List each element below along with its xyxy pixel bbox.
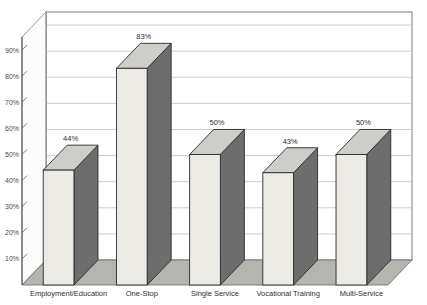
chart-canvas: 10%20%30%40%50%60%70%80%90% 44%83%50%43%… — [0, 0, 427, 305]
y-axis-tick-labels: 10%20%30%40%50%60%70%80%90% — [5, 47, 19, 263]
y-axis-tick-label: 70% — [5, 99, 19, 106]
y-axis-tick-label: 80% — [5, 73, 19, 80]
bar-value-label: 83% — [136, 32, 151, 41]
y-axis-tick-label: 10% — [5, 255, 19, 262]
bar-chart: 10%20%30%40%50%60%70%80%90% 44%83%50%43%… — [0, 0, 427, 305]
category-label: Multi-Service — [340, 289, 383, 298]
bar-side-face — [220, 129, 244, 285]
y-axis-tick-label: 90% — [5, 47, 19, 54]
y-axis-tick-label: 20% — [5, 229, 19, 236]
plot-left-wall — [22, 12, 46, 285]
category-label: Single Service — [191, 289, 239, 298]
y-axis-tick-label: 50% — [5, 151, 19, 158]
category-label: Vocational Training — [257, 289, 320, 298]
bar-front-face — [43, 170, 74, 285]
bar-3d — [336, 129, 391, 285]
category-label: Employment/Education — [30, 289, 107, 298]
bar-front-face — [263, 173, 294, 285]
bar-3d — [116, 43, 171, 285]
y-axis-tick-label: 40% — [5, 177, 19, 184]
bar-3d — [263, 148, 318, 285]
bar-side-face — [367, 129, 391, 285]
bar-front-face — [336, 154, 367, 285]
bar-front-face — [116, 68, 147, 285]
bar-3d — [190, 129, 245, 285]
bar-value-label: 50% — [356, 118, 371, 127]
category-label: One-Stop — [126, 289, 158, 298]
bar-value-label: 43% — [283, 137, 298, 146]
bar-side-face — [147, 43, 171, 285]
y-axis-tick-label: 60% — [5, 125, 19, 132]
bar-3d — [43, 145, 98, 285]
bar-value-label: 50% — [209, 118, 224, 127]
bar-front-face — [190, 154, 221, 285]
bar-value-label: 44% — [63, 134, 78, 143]
y-axis-tick-label: 30% — [5, 203, 19, 210]
